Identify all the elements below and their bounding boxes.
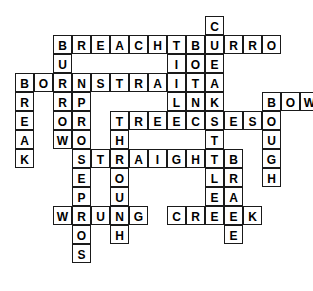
crossword-cell: R [72,111,91,130]
crossword-cell: R [243,35,262,54]
crossword-letter: I [175,77,178,89]
crossword-letter: K [20,153,29,165]
crossword-letter: A [210,77,219,89]
crossword-cell: R [53,92,72,111]
crossword-cell: S [72,149,91,168]
crossword-letter: N [115,210,124,222]
crossword-letter: E [210,58,218,70]
crossword-letter: R [248,39,257,51]
crossword-letter: W [57,210,68,222]
crossword-letter: N [77,77,86,89]
crossword-cell: K [205,92,224,111]
crossword-letter: O [267,39,276,51]
crossword-cell: G [167,149,186,168]
crossword-letter: R [229,39,238,51]
crossword-cell: A [15,130,34,149]
crossword-cell: T [110,111,129,130]
crossword-cell: C [186,111,205,130]
crossword-cell: E [148,111,167,130]
crossword-letter: R [229,172,238,184]
crossword-cell: G [262,149,281,168]
crossword-cell: K [243,206,262,225]
crossword-cell: U [91,206,110,225]
crossword-cell: E [205,54,224,73]
crossword-letter: R [58,96,67,108]
crossword-cell: W [53,130,72,149]
crossword-cell: R [110,149,129,168]
crossword-letter: E [210,210,218,222]
crossword-cell: I [167,73,186,92]
crossword-letter: U [58,58,67,70]
crossword-cell: E [167,111,186,130]
crossword-letter: T [116,77,123,89]
crossword-letter: A [20,134,29,146]
crossword-cell: U [110,187,129,206]
crossword-letter: O [267,115,276,127]
crossword-letter: B [191,39,200,51]
crossword-letter: B [58,39,67,51]
crossword-letter: K [248,210,257,222]
crossword-cell: R [72,35,91,54]
crossword-cell: O [72,225,91,244]
crossword-cell: H [262,168,281,187]
crossword-letter: O [58,115,67,127]
crossword-cell: E [224,111,243,130]
crossword-cell: L [205,168,224,187]
crossword-cell: C [205,16,224,35]
crossword-letter: H [191,153,200,165]
crossword-letter: H [115,229,124,241]
crossword-cell: B [53,35,72,54]
crossword-cell: E [91,35,110,54]
crossword-cell: B [15,73,34,92]
crossword-letter: R [20,96,29,108]
crossword-letter: S [248,115,256,127]
crossword-cell: R [129,73,148,92]
crossword-cell: H [186,149,205,168]
crossword-cell: O [53,111,72,130]
crossword-cell: E [205,187,224,206]
crossword-letter: R [134,77,143,89]
crossword-cell: A [205,73,224,92]
crossword-cell: E [205,206,224,225]
crossword-cell: O [281,92,300,111]
crossword-letter: O [77,229,86,241]
crossword-letter: T [173,39,180,51]
crossword-letter: C [191,115,200,127]
crossword-letter: U [115,191,124,203]
crossword-cell: P [72,187,91,206]
crossword-letter: R [58,77,67,89]
crossword-cell: B [186,35,205,54]
crossword-letter: R [134,115,143,127]
crossword-cell: U [262,130,281,149]
crossword-letter: B [267,96,276,108]
crossword-letter: T [211,134,218,146]
crossword-cell: G [129,206,148,225]
crossword-cell: H [148,35,167,54]
crossword-letter: U [267,134,276,146]
crossword-letter: K [210,96,219,108]
crossword-cell: B [262,92,281,111]
crossword-cell: S [91,73,110,92]
crossword-cell: A [129,149,148,168]
crossword-letter: H [153,39,162,51]
crossword-letter: A [134,153,143,165]
crossword-cell: U [53,54,72,73]
crossword-cell: R [129,111,148,130]
crossword-letter: O [115,172,124,184]
crossword-letter: W [304,96,313,108]
crossword-cell: R [186,206,205,225]
crossword-cell: C [167,206,186,225]
crossword-letter: E [229,115,237,127]
crossword-letter: R [191,210,200,222]
crossword-letter: B [20,77,29,89]
crossword-cell: T [205,130,224,149]
crossword-cell: O [262,35,281,54]
crossword-cell: C [129,35,148,54]
crossword-letter: L [173,96,180,108]
crossword-letter: S [77,153,85,165]
crossword-letter: A [229,191,238,203]
crossword-cell: W [53,206,72,225]
crossword-cell: E [15,111,34,130]
crossword-letter: S [96,77,104,89]
crossword-letter: G [172,153,181,165]
